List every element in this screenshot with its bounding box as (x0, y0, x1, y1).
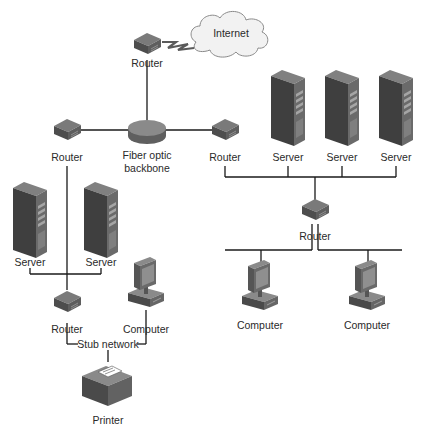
router-left-label: Router (51, 151, 83, 163)
backbone-label-line1: Fiber optic (122, 149, 171, 161)
computer-stub: Computer (123, 257, 170, 335)
server-right-3-label: Server (381, 151, 412, 163)
computer-right-2: Computer (344, 260, 391, 331)
printer-icon (82, 366, 132, 406)
stub-network-label: Stub network (77, 338, 139, 350)
router-icon (302, 199, 329, 220)
server-right-1-label: Server (273, 151, 304, 163)
backbone-icon (128, 120, 166, 136)
router-icon (54, 119, 81, 140)
internet-cloud: Internet (191, 11, 268, 57)
internet-label: Internet (213, 27, 249, 39)
server-right-2: Server (325, 70, 359, 163)
server-icon (325, 70, 359, 146)
computer-right-1: Computer (237, 260, 284, 331)
server-icon (271, 70, 305, 146)
computer-stub-label: Computer (123, 323, 170, 335)
computer-icon (128, 257, 164, 307)
computer-right-2-label: Computer (344, 319, 391, 331)
router-left: Router (51, 119, 83, 163)
server-left-2: Server (84, 182, 118, 268)
printer: Printer (82, 366, 132, 426)
server-left-1-label: Server (15, 256, 46, 268)
network-diagram: Internet Router Fiber optic backbone Rou… (0, 0, 424, 434)
wireless-link-icon (162, 42, 194, 50)
server-icon (13, 182, 47, 258)
router-stub: Router (51, 291, 83, 335)
server-left-2-label: Server (86, 256, 117, 268)
server-icon (84, 182, 118, 258)
server-icon (379, 70, 413, 146)
computer-icon (242, 260, 278, 310)
server-right-1: Server (271, 70, 305, 163)
fiber-optic-backbone: Fiber optic backbone (122, 120, 171, 174)
router-mid-right: Router (299, 199, 331, 242)
server-right-2-label: Server (327, 151, 358, 163)
server-left-1: Server (13, 182, 47, 268)
router-top: Router (131, 33, 163, 69)
computer-icon (349, 260, 385, 310)
server-right-3: Server (379, 70, 413, 163)
computer-right-1-label: Computer (237, 319, 284, 331)
router-icon (212, 119, 239, 140)
router-mid-right-label: Router (299, 230, 331, 242)
backbone-label-line2: backbone (124, 162, 170, 174)
router-icon (134, 33, 161, 54)
router-top-label: Router (131, 57, 163, 69)
router-right: Router (209, 119, 241, 163)
router-right-label: Router (209, 151, 241, 163)
router-icon (54, 291, 81, 312)
router-stub-label: Router (51, 323, 83, 335)
printer-label: Printer (93, 414, 124, 426)
